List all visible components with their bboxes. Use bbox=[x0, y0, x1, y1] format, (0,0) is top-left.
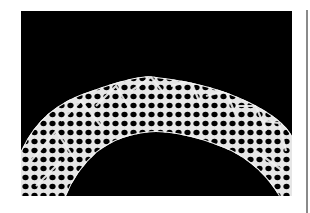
page-divider-line bbox=[306, 10, 308, 213]
lace-photo: White lace band forming an arch with dia… bbox=[21, 11, 292, 196]
lace-arc-graphic bbox=[21, 11, 292, 196]
